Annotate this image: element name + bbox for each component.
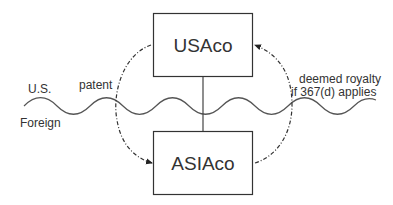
border-wave-line [24,98,376,115]
royalty-label-line1: deemed royalty [299,72,381,86]
region-label-us: U.S. [28,82,51,96]
region-label-foreign: Foreign [20,116,61,130]
usaco-label: USAco [173,35,232,56]
royalty-arrow [255,45,292,163]
patent-label: patent [79,78,113,92]
asiaco-label: ASIAco [171,153,234,174]
asiaco-box: ASIAco [154,132,253,195]
diagram-canvas: USAco ASIAco U.S. Foreign patent deemed … [0,0,393,205]
royalty-label-line2: if 367(d) applies [291,85,376,99]
usaco-box: USAco [154,14,253,77]
